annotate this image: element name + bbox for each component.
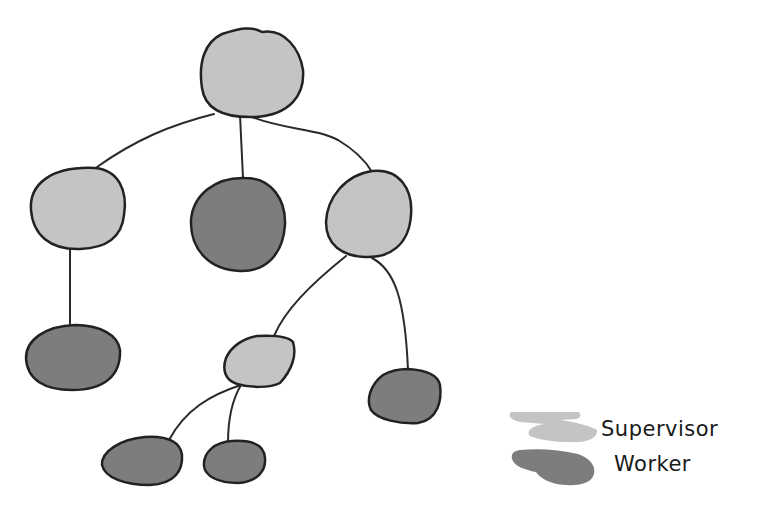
node-left-supervisor xyxy=(31,168,125,249)
legend-swatch-supervisor xyxy=(510,412,597,442)
edge-right-supervisor-right-worker xyxy=(372,258,408,370)
edge-root-middle-worker xyxy=(240,115,243,178)
node-root-supervisor xyxy=(201,28,303,117)
legend-label-worker: Worker xyxy=(614,452,691,476)
legend-swatches xyxy=(510,412,597,485)
hierarchy-diagram xyxy=(0,0,760,519)
node-right-worker xyxy=(369,369,441,423)
node-right-supervisor xyxy=(326,171,411,257)
edge-root-right-supervisor xyxy=(252,117,372,172)
node-sub-worker-2 xyxy=(204,441,265,483)
node-sub-worker-1 xyxy=(102,437,182,485)
node-left-worker xyxy=(26,325,120,390)
legend-swatch-worker xyxy=(512,449,595,485)
node-sub-supervisor xyxy=(224,336,294,387)
node-middle-worker xyxy=(191,178,285,271)
legend-label-supervisor: Supervisor xyxy=(601,417,718,441)
nodes xyxy=(26,28,440,485)
edges xyxy=(70,114,408,443)
edge-root-left-supervisor xyxy=(97,114,214,167)
edge-sub-supervisor-sub-worker-2 xyxy=(228,385,241,443)
edge-right-supervisor-sub-supervisor xyxy=(274,256,346,336)
